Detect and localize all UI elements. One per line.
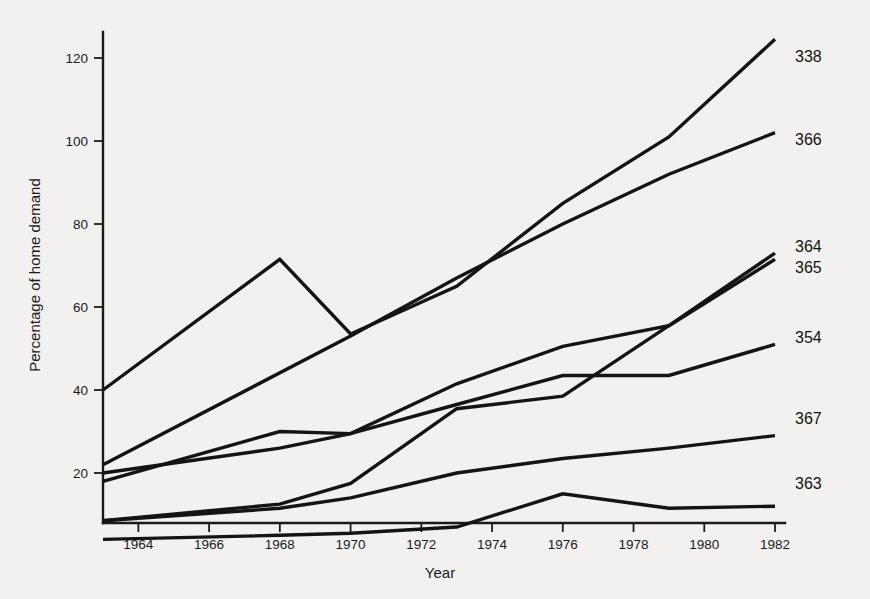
x-tick-label: 1972 xyxy=(406,537,436,552)
x-tick-label: 1968 xyxy=(265,537,295,552)
series-label-365: 365 xyxy=(795,259,822,276)
y-tick-label: 60 xyxy=(73,300,88,315)
series-label-363: 363 xyxy=(795,475,822,492)
y-axis-ticks: 20406080100120 xyxy=(65,51,103,481)
y-tick-label: 80 xyxy=(73,217,88,232)
y-axis-title: Percentage of home demand xyxy=(26,178,43,371)
x-tick-label: 1966 xyxy=(194,537,224,552)
chart-axes xyxy=(103,32,785,523)
series-label-366: 366 xyxy=(795,131,822,148)
x-axis-title: Year xyxy=(425,564,455,581)
y-tick-label: 40 xyxy=(73,383,88,398)
series-label-367: 367 xyxy=(795,410,822,427)
line-chart: 20406080100120 1964196619681970197219741… xyxy=(0,0,870,599)
x-tick-label: 1970 xyxy=(336,537,366,552)
chart-series-labels: 338366364365354367363 xyxy=(795,48,822,492)
y-tick-label: 20 xyxy=(73,466,88,481)
series-line-366 xyxy=(103,133,775,465)
series-line-365 xyxy=(103,259,775,520)
y-tick-label: 120 xyxy=(65,51,88,66)
x-tick-label: 1974 xyxy=(477,537,508,552)
x-tick-label: 1978 xyxy=(619,537,649,552)
series-label-338: 338 xyxy=(795,48,822,65)
y-tick-label: 100 xyxy=(65,134,88,149)
chart-container: 20406080100120 1964196619681970197219741… xyxy=(0,0,870,599)
series-line-363 xyxy=(103,494,775,540)
series-line-338 xyxy=(103,39,775,390)
x-tick-label: 1976 xyxy=(548,537,578,552)
chart-series-lines xyxy=(103,39,775,539)
series-label-354: 354 xyxy=(795,329,822,346)
x-tick-label: 1982 xyxy=(760,537,790,552)
x-tick-label: 1980 xyxy=(689,537,719,552)
series-label-364: 364 xyxy=(795,238,822,255)
